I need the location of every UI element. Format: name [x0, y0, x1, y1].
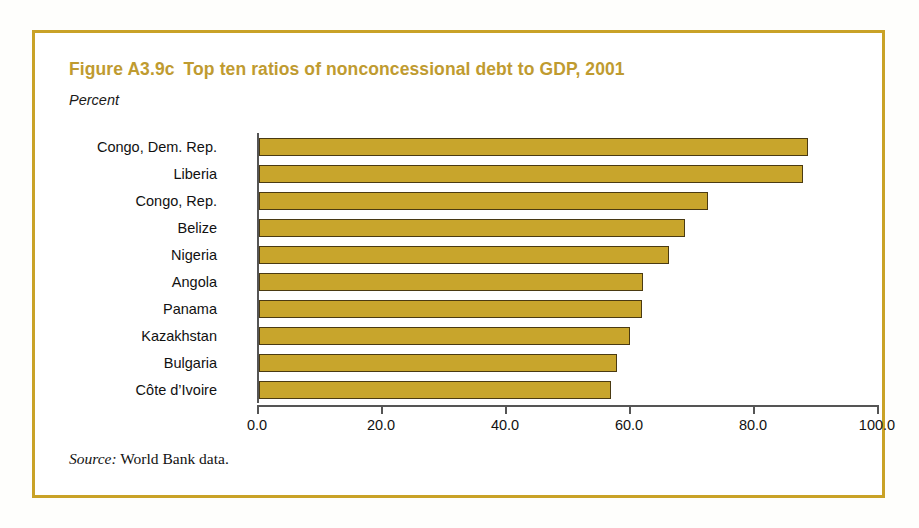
bar: [259, 327, 630, 345]
x-axis-tick-label: 40.0: [491, 417, 519, 433]
chart-plot-area: Congo, Dem. Rep.LiberiaCongo, Rep.Belize…: [69, 133, 855, 423]
x-axis-tick: [505, 405, 507, 414]
figure-subtitle: Percent: [69, 92, 119, 108]
bar: [259, 381, 611, 399]
x-axis-tick: [629, 405, 631, 414]
x-axis-tick: [753, 405, 755, 414]
bar: [259, 273, 643, 291]
x-axis-tick-label: 100.0: [859, 417, 895, 433]
category-label: Kazakhstan: [141, 327, 217, 344]
bar: [259, 300, 642, 318]
bars-container: [259, 133, 883, 403]
x-axis-tick-label: 0.0: [247, 417, 267, 433]
bar: [259, 165, 803, 183]
bar: [259, 138, 808, 156]
bar: [259, 219, 685, 237]
figure-number: Figure A3.9c: [69, 59, 175, 79]
x-axis-tick-label: 80.0: [739, 417, 767, 433]
bar: [259, 354, 617, 372]
category-label: Nigeria: [171, 246, 217, 263]
source-label: Source:: [69, 450, 117, 467]
figure-page: Figure A3.9cTop ten ratios of nonconcess…: [0, 0, 919, 528]
x-axis-tick: [381, 405, 383, 414]
category-label: Congo, Dem. Rep.: [97, 138, 217, 155]
category-label: Côte d’Ivoire: [136, 381, 217, 398]
category-axis-labels: Congo, Dem. Rep.LiberiaCongo, Rep.Belize…: [69, 133, 225, 403]
category-label: Belize: [178, 219, 218, 236]
x-axis-tick-label: 60.0: [615, 417, 643, 433]
category-label: Angola: [172, 273, 217, 290]
x-axis-tick: [257, 405, 259, 414]
figure-frame: Figure A3.9cTop ten ratios of nonconcess…: [32, 30, 885, 498]
x-axis-line: [257, 405, 877, 407]
figure-title-text: Top ten ratios of nonconcessional debt t…: [184, 59, 625, 79]
category-label: Congo, Rep.: [136, 192, 217, 209]
bar: [259, 246, 669, 264]
x-axis-tick-label: 20.0: [367, 417, 395, 433]
source-note: Source: World Bank data.: [69, 450, 229, 468]
category-label: Panama: [163, 300, 217, 317]
source-text: World Bank data.: [117, 450, 229, 467]
figure-title: Figure A3.9cTop ten ratios of nonconcess…: [69, 59, 625, 80]
category-label: Liberia: [173, 165, 217, 182]
category-label: Bulgaria: [164, 354, 217, 371]
bar: [259, 192, 708, 210]
x-axis-tick: [877, 405, 879, 414]
